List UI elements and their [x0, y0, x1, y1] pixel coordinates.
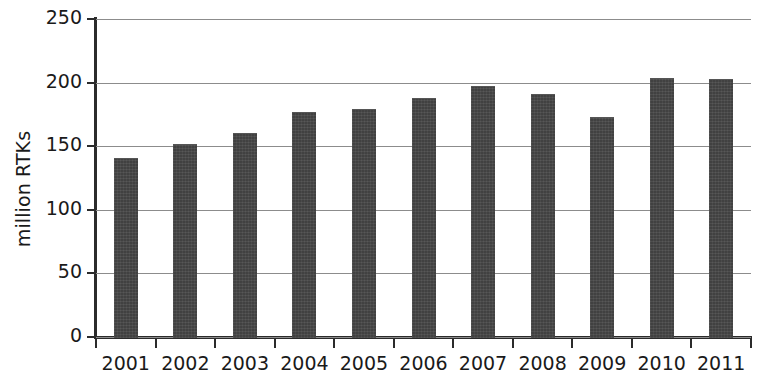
x-axis-tick: [452, 338, 454, 348]
bar-2004: [292, 112, 316, 338]
bar-2003: [233, 133, 257, 338]
x-axis-tick: [690, 338, 692, 348]
x-axis-tick: [393, 338, 395, 348]
x-axis-tick-label: 2010: [632, 352, 692, 374]
bar-2007: [471, 86, 495, 338]
y-axis-tick: [87, 82, 96, 84]
x-axis-tick-label: 2002: [155, 352, 215, 374]
x-axis-tick-label: 2001: [96, 352, 156, 374]
y-axis-tick-label: 200: [22, 70, 82, 92]
x-axis-tick-label: 2008: [513, 352, 573, 374]
bar-2002: [173, 144, 197, 338]
x-axis-tick-label: 2011: [691, 352, 751, 374]
x-axis-tick: [571, 338, 573, 348]
x-axis-tick: [512, 338, 514, 348]
x-axis-tick-label: 2005: [334, 352, 394, 374]
bar-2001: [114, 158, 138, 338]
y-axis-tick-label: 50: [22, 260, 82, 282]
bar-2006: [412, 98, 436, 338]
bar-2011: [709, 79, 733, 338]
x-axis-tick: [95, 338, 97, 348]
y-axis-tick: [87, 18, 96, 20]
y-axis-tick: [87, 272, 96, 274]
x-axis-tick-label: 2006: [394, 352, 454, 374]
x-axis-tick: [214, 338, 216, 348]
x-axis-tick-label: 2007: [453, 352, 513, 374]
x-axis-tick-label: 2004: [274, 352, 334, 374]
x-axis-tick: [155, 338, 157, 348]
x-axis-tick: [333, 338, 335, 348]
y-axis-tick: [87, 145, 96, 147]
x-axis-tick: [274, 338, 276, 348]
x-axis-tick-label: 2003: [215, 352, 275, 374]
y-axis-tick: [87, 209, 96, 211]
y-axis-tick-label: 150: [22, 133, 82, 155]
bar-2008: [531, 94, 555, 338]
x-axis-tick-label: 2009: [572, 352, 632, 374]
bar-2005: [352, 109, 376, 338]
x-axis-tick: [750, 338, 752, 348]
y-axis-tick-label: 0: [22, 324, 82, 346]
x-axis-tick: [631, 338, 633, 348]
gridline: [96, 19, 751, 20]
y-axis-tick-label: 100: [22, 197, 82, 219]
plot-area: [96, 19, 751, 337]
bar-chart: million RTKs 050100150200250 20012002200…: [0, 0, 760, 378]
bar-2010: [650, 78, 674, 338]
y-axis-tick-label: 250: [22, 6, 82, 28]
bar-2009: [590, 117, 614, 338]
